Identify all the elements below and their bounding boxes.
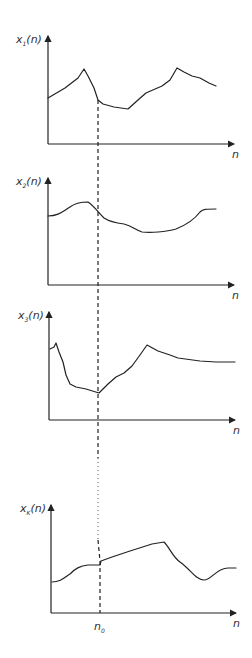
ylabel-xK: xK(n) [19,502,46,516]
xlabel-n: n [232,289,239,302]
xlabel-n: n [233,424,240,437]
signals-diagram: x1(n) n x2(n) n x3(n) n xK(n) n n0 [0,0,252,658]
n0-reference-line [98,100,100,613]
signal-curve [50,343,235,393]
n0-label: n0 [94,620,105,634]
xlabel-n: n [233,617,240,630]
panel-x2: x2(n) n [15,175,239,302]
panel-xK: xK(n) n [19,502,240,630]
signal-curve [48,68,216,109]
panel-x3: x3(n) n [17,309,240,437]
ylabel-x2: x2(n) [15,175,42,189]
ylabel-x3: x3(n) [17,309,44,323]
signal-curve [48,202,216,232]
signal-curve [52,542,236,582]
xlabel-n: n [232,148,239,161]
panel-x1: x1(n) n [15,33,239,161]
ylabel-x1: x1(n) [15,33,42,47]
